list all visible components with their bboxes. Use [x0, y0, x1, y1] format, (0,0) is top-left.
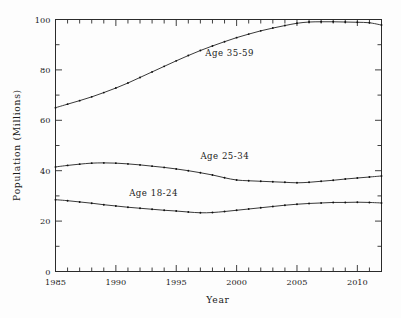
data-point-marker: [212, 174, 214, 176]
data-point-marker: [344, 21, 346, 23]
y-tick-label: 80: [40, 65, 50, 75]
x-tick-label: 2005: [287, 277, 308, 287]
data-point-marker: [55, 199, 57, 201]
data-point-marker: [296, 22, 298, 24]
data-point-marker: [284, 204, 286, 206]
data-point-marker: [163, 166, 165, 168]
data-point-marker: [103, 162, 105, 164]
data-point-marker: [272, 27, 274, 29]
data-point-marker: [151, 165, 153, 167]
chart-figure: 198519901995200020052010020406080100 Age…: [0, 0, 401, 318]
data-point-marker: [260, 180, 262, 182]
data-point-marker: [187, 55, 189, 57]
data-point-marker: [296, 203, 298, 205]
data-point-marker: [79, 100, 81, 102]
data-point-marker: [320, 180, 322, 182]
x-tick-label: 1985: [45, 277, 66, 287]
series-label-1: Age 35-59: [204, 48, 254, 58]
data-point-marker: [187, 170, 189, 172]
data-point-marker: [127, 163, 129, 165]
data-point-marker: [103, 92, 105, 94]
data-point-marker: [163, 209, 165, 211]
data-point-marker: [91, 162, 93, 164]
data-point-marker: [79, 163, 81, 165]
data-point-marker: [212, 45, 214, 47]
data-point-marker: [344, 202, 346, 204]
data-point-marker: [224, 41, 226, 43]
data-point-marker: [381, 24, 383, 26]
data-point-marker: [332, 21, 334, 23]
data-point-marker: [163, 65, 165, 67]
data-point-marker: [175, 60, 177, 62]
data-point-marker: [368, 176, 370, 178]
data-point-marker: [260, 30, 262, 32]
data-point-marker: [308, 203, 310, 205]
series-line: [56, 22, 382, 108]
data-point-marker: [175, 168, 177, 170]
data-point-marker: [91, 96, 93, 98]
data-point-marker: [320, 21, 322, 23]
data-point-marker: [248, 180, 250, 182]
data-point-marker: [139, 77, 141, 79]
data-point-marker: [284, 25, 286, 27]
data-point-marker: [175, 210, 177, 212]
data-point-marker: [67, 200, 69, 202]
data-point-marker: [356, 201, 358, 203]
series-2: [55, 162, 383, 184]
data-point-marker: [332, 179, 334, 181]
data-point-marker: [224, 177, 226, 179]
data-point-marker: [368, 22, 370, 24]
y-tick-label: 20: [40, 216, 50, 226]
data-point-marker: [248, 33, 250, 35]
data-point-marker: [248, 208, 250, 210]
data-point-marker: [103, 204, 105, 206]
data-point-marker: [115, 162, 117, 164]
data-point-marker: [55, 107, 57, 109]
x-tick-label: 2010: [347, 277, 368, 287]
data-point-marker: [296, 182, 298, 184]
data-point-marker: [356, 177, 358, 179]
x-tick-label: 1990: [105, 277, 126, 287]
y-tick-label: 0: [45, 267, 50, 277]
data-point-marker: [151, 208, 153, 210]
data-point-marker: [212, 212, 214, 214]
x-axis-title: Year: [205, 294, 229, 305]
data-point-marker: [272, 206, 274, 208]
series-label-2: Age 25-34: [199, 151, 249, 161]
data-point-marker: [368, 202, 370, 204]
y-axis-title: Population (Millions): [11, 89, 22, 201]
data-point-marker: [308, 21, 310, 23]
data-point-marker: [115, 87, 117, 89]
line-chart-canvas: 198519901995200020052010020406080100 Age…: [0, 0, 401, 318]
data-point-marker: [127, 206, 129, 208]
series-label-3: Age 18-24: [128, 188, 178, 198]
data-point-marker: [199, 172, 201, 174]
series-1: [55, 21, 383, 109]
data-point-marker: [236, 37, 238, 39]
data-point-marker: [236, 209, 238, 211]
data-point-marker: [356, 21, 358, 23]
y-tick-label: 40: [40, 166, 50, 176]
x-tick-label: 1995: [166, 277, 187, 287]
data-point-marker: [79, 201, 81, 203]
data-point-marker: [199, 50, 201, 52]
data-point-marker: [284, 181, 286, 183]
data-point-marker: [67, 164, 69, 166]
data-point-marker: [55, 166, 57, 168]
data-point-marker: [187, 211, 189, 213]
series-line: [56, 200, 382, 213]
data-point-marker: [320, 202, 322, 204]
data-point-marker: [91, 202, 93, 204]
data-point-marker: [127, 82, 129, 84]
data-point-marker: [199, 212, 201, 214]
data-point-marker: [139, 207, 141, 209]
y-tick-label: 100: [35, 15, 51, 25]
data-point-marker: [115, 205, 117, 207]
data-point-marker: [344, 178, 346, 180]
data-point-marker: [224, 211, 226, 213]
data-point-marker: [151, 71, 153, 73]
x-tick-label: 2000: [226, 277, 247, 287]
data-point-marker: [308, 181, 310, 183]
series-annotations: Age 35-59Age 25-34Age 18-24: [128, 48, 254, 198]
data-point-marker: [381, 202, 383, 204]
